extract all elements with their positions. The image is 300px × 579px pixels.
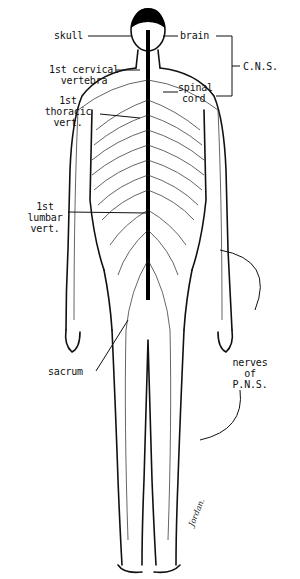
label-1st-lumbar-line1: 1st — [20, 201, 70, 212]
label-spinal-cord-line1: spinal — [178, 82, 213, 93]
label-sacrum: sacrum — [48, 366, 83, 377]
body-figure-illustration — [0, 0, 300, 579]
label-1st-thoracic-line2: thoracic — [40, 106, 96, 117]
label-pns-line2: of — [222, 368, 278, 379]
label-spinal-cord-line2: cord — [182, 93, 205, 104]
label-1st-cervical-vertebra-line2: vertebra — [44, 75, 124, 86]
label-1st-cervical-vertebra-line1: 1st cervical — [44, 64, 124, 75]
label-1st-thoracic-line3: vert. — [40, 117, 96, 128]
label-1st-lumbar-line2: lumbar — [20, 212, 70, 223]
label-pns-line1: nerves — [222, 357, 278, 368]
label-pns-line3: P.N.S. — [222, 379, 278, 390]
label-brain: brain — [180, 30, 209, 41]
label-skull: skull — [54, 30, 83, 41]
label-1st-lumbar-line3: vert. — [20, 223, 70, 234]
label-1st-thoracic-line1: 1st — [40, 95, 96, 106]
label-cns: C.N.S. — [243, 61, 278, 72]
